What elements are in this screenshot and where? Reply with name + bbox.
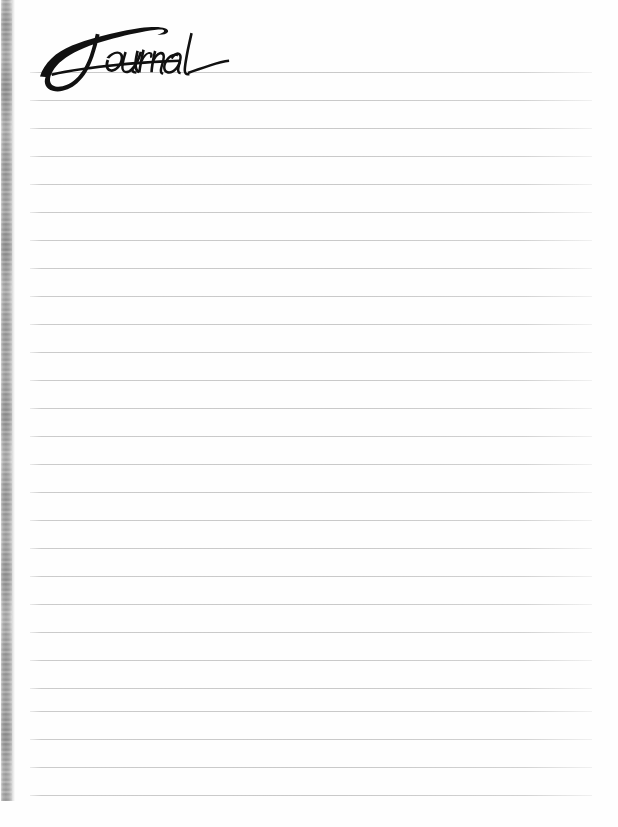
ruled-line xyxy=(30,436,592,437)
ruled-line xyxy=(30,548,592,549)
ruled-line xyxy=(30,408,592,409)
ruled-line xyxy=(30,464,592,465)
ruled-line xyxy=(30,240,592,241)
ruled-line xyxy=(30,795,592,796)
ruled-line xyxy=(30,660,592,661)
ruled-line xyxy=(30,739,592,740)
ruled-line xyxy=(30,688,592,689)
ruled-line xyxy=(30,711,592,712)
journal-script-glyph xyxy=(34,14,264,90)
journal-page: Journal xyxy=(0,0,618,827)
ruled-line xyxy=(30,296,592,297)
ruled-line xyxy=(30,767,592,768)
ruled-line xyxy=(30,520,592,521)
ruled-line xyxy=(30,576,592,577)
paper-edge-texture xyxy=(1,0,12,801)
ruled-line xyxy=(30,352,592,353)
ruled-line xyxy=(30,632,592,633)
ruled-line xyxy=(30,380,592,381)
ruled-line xyxy=(30,268,592,269)
ruled-line xyxy=(30,324,592,325)
ruled-line xyxy=(30,100,592,101)
ruled-lines-group xyxy=(0,0,618,827)
page-title: Journal xyxy=(34,14,264,90)
ruled-line xyxy=(30,604,592,605)
ruled-line xyxy=(30,128,592,129)
paper-edge-shadow xyxy=(12,0,15,801)
ruled-line xyxy=(30,156,592,157)
ruled-line xyxy=(30,492,592,493)
ruled-line xyxy=(30,184,592,185)
ruled-line xyxy=(30,212,592,213)
